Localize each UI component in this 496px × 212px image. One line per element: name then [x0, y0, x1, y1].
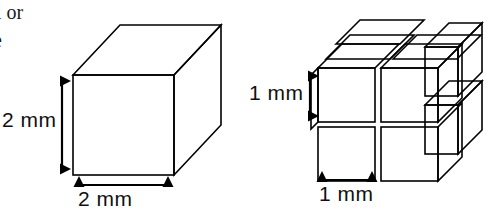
subcube-front-bottom-right: [381, 103, 462, 181]
subcube-front-top-left: [318, 44, 399, 122]
subcube-front-face: [318, 127, 375, 181]
left-cube-side-face: [174, 25, 221, 175]
assembly-left-depth-sliver: [311, 68, 318, 129]
subcube-front-face: [381, 68, 438, 122]
figure-root: l or e 2 mm 2 mm 1 mm 1 mm: [0, 0, 496, 212]
left-cube-front-face: [73, 75, 174, 175]
subcube-front-bottom-left: [318, 127, 375, 181]
left-cube-top-face: [73, 25, 221, 75]
subcube-top-face: [318, 44, 399, 68]
right-cube-assembly-group: [311, 20, 482, 181]
subcube-front-top-right: [381, 44, 462, 122]
left-cube-group: [73, 25, 221, 175]
subcube-front-face: [318, 68, 375, 122]
cube-diagram-svg: [0, 0, 496, 212]
subcube-back-right-bottom: [425, 81, 482, 154]
subcube-top-face: [425, 81, 482, 105]
